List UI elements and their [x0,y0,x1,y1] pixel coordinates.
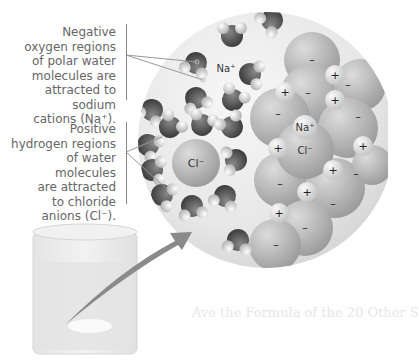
beaker [33,224,137,354]
minus-sign: – [345,78,351,91]
minus-sign: – [355,110,361,123]
plus-sign: + [328,164,337,177]
plus-sign: + [273,142,282,155]
minus-sign: – [330,197,336,210]
crystal-sodium-label: Na⁺ [296,122,315,133]
minus-sign: – [302,221,308,234]
plus-sign: + [280,86,289,99]
plus-sign: + [330,69,339,82]
crystal-chloride-label: Cl⁻ [297,145,312,156]
plus-sign: + [274,207,283,220]
minus-sign: – [309,53,315,66]
salt-crystals [68,319,112,333]
plus-sign: + [302,186,311,199]
plus-sign: + [330,94,339,107]
plus-sign: + [358,140,367,153]
sodium-ion-label: Na⁺ [217,63,236,74]
chloride-ion-label: Cl⁻ [188,157,205,170]
minus-sign: – [273,238,279,251]
minus-sign: – [277,177,283,190]
minus-sign: – [305,86,311,99]
minus-sign: – [353,167,359,180]
minus-sign: – [275,107,281,120]
